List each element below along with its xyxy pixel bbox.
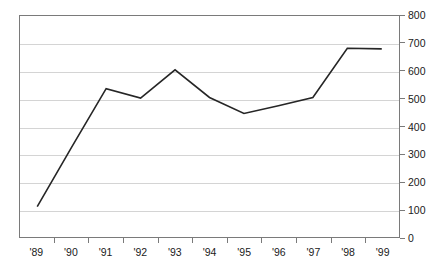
x-tick-label: '98 — [341, 246, 355, 258]
x-tick-mark — [123, 238, 124, 243]
y-axis-tick: 600 — [400, 64, 441, 78]
y-tick-mark — [400, 154, 405, 155]
x-tick-mark — [365, 238, 366, 243]
y-axis-tick: 400 — [400, 120, 441, 134]
x-tick-label: '99 — [376, 246, 390, 258]
y-tick-mark — [400, 70, 405, 71]
x-tick-label: '89 — [29, 246, 43, 258]
y-tick-label: 500 — [408, 92, 426, 106]
y-tick-label: 0 — [408, 231, 414, 245]
y-tick-mark — [400, 98, 405, 99]
x-tick-label: '96 — [272, 246, 286, 258]
x-tick-label: '97 — [307, 246, 321, 258]
y-tick-label: 600 — [408, 64, 426, 78]
y-tick-mark — [400, 182, 405, 183]
x-tick-label: '94 — [203, 246, 217, 258]
x-tick-mark — [88, 238, 89, 243]
y-tick-label: 700 — [408, 36, 426, 50]
y-axis-tick: 500 — [400, 92, 441, 106]
x-tick-label: '95 — [237, 246, 251, 258]
y-tick-label: 800 — [408, 8, 426, 22]
plot-area — [19, 15, 400, 238]
x-tick-label: '91 — [99, 246, 113, 258]
y-tick-mark — [400, 210, 405, 211]
y-tick-mark — [400, 238, 405, 239]
y-axis: 0100200300400500600700800 — [400, 0, 441, 266]
x-tick-label: '93 — [168, 246, 182, 258]
y-axis-tick: 0 — [400, 231, 441, 245]
x-tick-mark — [296, 238, 297, 243]
x-tick-mark — [54, 238, 55, 243]
y-tick-label: 300 — [408, 147, 426, 161]
x-tick-label: '92 — [133, 246, 147, 258]
series-line-group — [20, 16, 399, 237]
y-tick-label: 100 — [408, 203, 426, 217]
y-tick-label: 200 — [408, 175, 426, 189]
y-axis-tick: 100 — [400, 203, 441, 217]
y-tick-mark — [400, 42, 405, 43]
x-tick-label: '90 — [64, 246, 78, 258]
y-axis-tick: 200 — [400, 175, 441, 189]
y-axis-tick: 700 — [400, 36, 441, 50]
x-tick-mark — [227, 238, 228, 243]
x-tick-mark — [192, 238, 193, 243]
x-tick-mark — [261, 238, 262, 243]
y-axis-tick: 300 — [400, 147, 441, 161]
y-tick-label: 400 — [408, 120, 426, 134]
y-axis-tick: 800 — [400, 8, 441, 22]
x-axis: '89'90'91'92'93'94'95'96'97'98'99 — [19, 238, 400, 266]
x-tick-mark — [158, 238, 159, 243]
x-tick-mark — [331, 238, 332, 243]
line-chart: 0100200300400500600700800 '89'90'91'92'9… — [0, 0, 441, 266]
y-tick-mark — [400, 15, 405, 16]
y-tick-mark — [400, 126, 405, 127]
series-line — [37, 48, 382, 206]
